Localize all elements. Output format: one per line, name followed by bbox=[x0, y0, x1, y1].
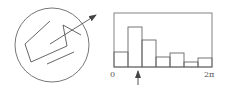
histogram-bars bbox=[114, 27, 212, 67]
histogram-bar-4 bbox=[156, 57, 170, 67]
axis-label-two-pi: 2π bbox=[204, 70, 214, 79]
direction-arrow bbox=[50, 15, 96, 44]
path-polyline bbox=[25, 21, 81, 62]
histogram-frame bbox=[114, 13, 212, 67]
parallel-segment bbox=[47, 52, 74, 64]
boundary-circle bbox=[15, 8, 89, 82]
angle-histogram: 0 2π bbox=[110, 13, 214, 85]
histogram-bar-6 bbox=[184, 62, 198, 67]
histogram-bar-5 bbox=[170, 53, 184, 67]
histogram-bar-7 bbox=[198, 58, 212, 67]
diagram-canvas: 0 2π bbox=[0, 0, 230, 90]
axis-label-zero: 0 bbox=[110, 70, 115, 79]
circle-path-diagram bbox=[15, 8, 96, 82]
histogram-bar-3 bbox=[142, 40, 156, 67]
histogram-bar-2 bbox=[128, 27, 142, 67]
histogram-bar-1 bbox=[114, 52, 128, 67]
